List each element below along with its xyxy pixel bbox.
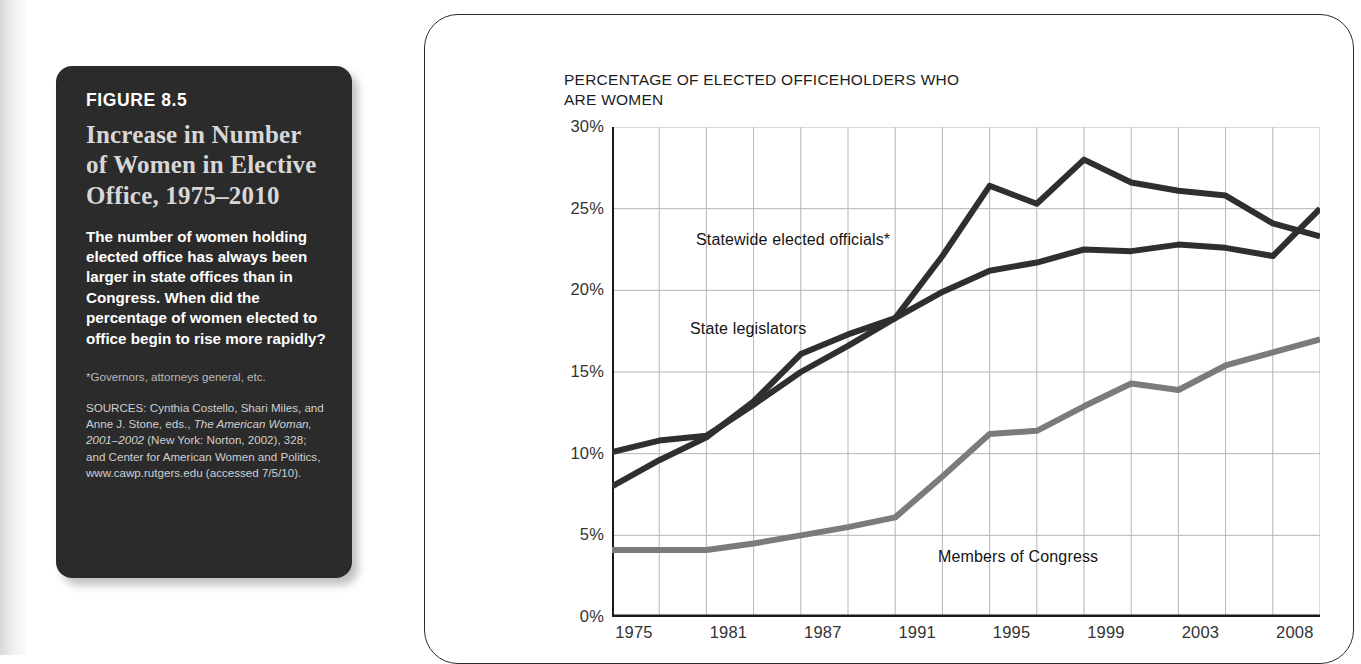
y-axis-tick-label: 15%: [552, 362, 604, 381]
series-annotation-label: Statewide elected officials*: [696, 231, 890, 249]
figure-caption-box: FIGURE 8.5 Increase in Number of Women i…: [56, 66, 352, 578]
chart-plot-area: 0%5%10%15%20%25%30%197519811987199119951…: [612, 127, 1320, 617]
line-chart-svg: [612, 127, 1320, 617]
x-axis-tick-label: 1995: [972, 623, 1052, 642]
x-axis-tick-label: 1981: [688, 623, 768, 642]
y-axis-tick-label: 10%: [552, 444, 604, 463]
figure-label: FIGURE 8.5: [86, 90, 326, 111]
x-axis-tick-label: 1975: [594, 623, 674, 642]
y-axis-tick-label: 5%: [552, 525, 604, 544]
x-axis-tick-label: 1987: [783, 623, 863, 642]
y-axis-tick-label: 20%: [552, 280, 604, 299]
series-annotation-label: State legislators: [690, 320, 806, 338]
y-axis-tick-label: 30%: [552, 117, 604, 136]
x-axis-tick-label: 2008: [1255, 623, 1335, 642]
series-annotation-label: Members of Congress: [938, 548, 1098, 566]
x-axis-tick-label: 2003: [1160, 623, 1240, 642]
page-edge-shading: [0, 0, 26, 655]
figure-title: Increase in Number of Women in Elective …: [86, 120, 326, 211]
chart-title: PERCENTAGE OF ELECTED OFFICEHOLDERS WHO …: [564, 70, 964, 110]
figure-sources: SOURCES: Cynthia Costello, Shari Miles, …: [86, 400, 326, 482]
x-axis-tick-label: 1991: [877, 623, 957, 642]
figure-description: The number of women holding elected offi…: [86, 227, 326, 349]
figure-footnote: *Governors, attorneys general, etc.: [86, 369, 326, 385]
y-axis-tick-label: 25%: [552, 199, 604, 218]
x-axis-tick-label: 1999: [1066, 623, 1146, 642]
